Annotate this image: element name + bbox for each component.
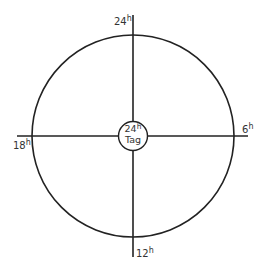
label-18h-unit: h [26,138,31,147]
label-6h-unit: h [248,122,253,131]
label-18h-value: 18 [13,140,26,151]
label-6h-right: 6h [242,125,253,135]
center-hours-unit: h [137,122,142,131]
label-12h-unit: h [149,246,154,255]
label-24h-value: 24 [114,16,127,27]
label-24h-top: 24h [114,17,132,27]
label-18h-left: 18h [13,141,31,151]
label-12h-value: 12 [136,248,149,259]
center-hours-value: 24 [125,123,137,134]
label-24h-unit: h [127,14,132,23]
center-day-label: Tag [119,135,147,145]
label-12h-bottom: 12h [136,249,154,259]
center-label: 24h Tag [119,124,147,145]
